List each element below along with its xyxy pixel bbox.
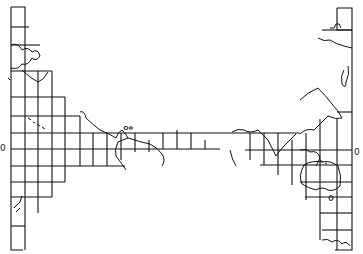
equator-label-left: 0: [0, 143, 6, 153]
world-map: [0, 0, 363, 254]
left-coastlines: [8, 44, 164, 212]
equator-label-right: 0: [354, 147, 360, 157]
left-graticule: [11, 7, 300, 250]
right-graticule: [245, 8, 352, 250]
